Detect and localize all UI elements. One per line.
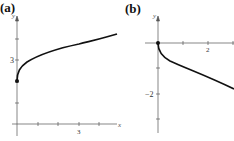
svg-text:3: 3 [77, 128, 81, 136]
svg-text:y: y [11, 12, 16, 20]
svg-text:3: 3 [10, 56, 14, 65]
svg-text:x: x [117, 121, 122, 129]
curve-b [158, 43, 234, 89]
svg-text:−2: −2 [145, 90, 154, 99]
graph-a [12, 16, 117, 136]
curve-a [17, 34, 117, 81]
graph-b [145, 16, 234, 133]
graphs: y 3 3 y 2 −2 x [0, 0, 234, 141]
svg-text:2: 2 [206, 46, 210, 54]
svg-text:y: y [152, 12, 157, 20]
